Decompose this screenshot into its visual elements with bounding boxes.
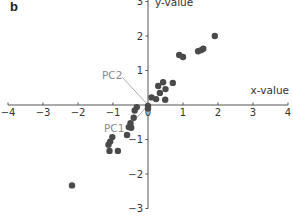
data-point <box>145 105 151 111</box>
data-point <box>170 80 176 86</box>
x-tick-label: 3 <box>250 107 256 118</box>
y-axis-title: y-value <box>155 0 193 8</box>
x-tick-label: 2 <box>215 107 221 118</box>
y-tick-label: 1 <box>137 65 143 76</box>
data-point <box>106 148 112 154</box>
scatter-chart: −4−3−2−101234−3−2−1123x-valuey-value PC1… <box>0 0 293 222</box>
data-point <box>105 142 111 148</box>
y-tick-label: −2 <box>128 169 143 180</box>
pc2-label: PC2 <box>102 69 122 81</box>
x-tick-label: −4 <box>1 107 16 118</box>
y-tick-label: −1 <box>128 134 143 145</box>
x-tick-label: −2 <box>71 107 86 118</box>
data-point <box>155 83 161 89</box>
pc-line <box>122 77 148 105</box>
x-tick-label: −3 <box>36 107 51 118</box>
pc1-label: PC1 <box>104 122 124 134</box>
x-tick-label: −1 <box>106 107 121 118</box>
data-point <box>128 125 134 131</box>
x-tick-label: 4 <box>285 107 291 118</box>
data-point <box>132 107 138 113</box>
data-point <box>124 132 130 138</box>
data-point <box>162 86 168 92</box>
data-point <box>131 115 137 121</box>
data-point <box>212 33 218 39</box>
y-tick-label: 3 <box>137 0 143 7</box>
pc-annotations: PC1PC2 <box>102 69 148 134</box>
data-point <box>195 48 201 54</box>
x-axis-title: x-value <box>251 84 289 96</box>
data-point <box>115 148 121 154</box>
y-tick-label: −3 <box>128 203 143 214</box>
data-point <box>69 182 75 188</box>
y-tick-label: 2 <box>137 31 143 42</box>
data-point <box>157 90 163 96</box>
x-tick-label: 1 <box>180 107 186 118</box>
data-point <box>162 97 168 103</box>
data-point <box>180 54 186 60</box>
data-point <box>153 96 159 102</box>
